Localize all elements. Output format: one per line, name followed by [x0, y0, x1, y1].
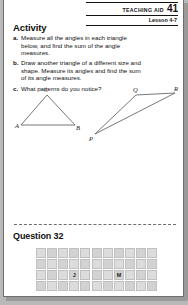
lesson-label: Lesson 4-7 — [86, 16, 178, 25]
grid-cell-letter: M — [115, 271, 123, 279]
page-shadow-right — [184, 3, 188, 300]
activity-item-b-text: Draw another triangle of a different siz… — [21, 59, 143, 82]
header-rule-top — [86, 2, 178, 3]
figure-area: A B C P Q R — [4, 84, 184, 144]
triangle-abc-outline — [21, 95, 75, 125]
grid-cell[interactable]: J — [69, 270, 79, 280]
grid-cell[interactable] — [147, 281, 157, 291]
grid-cell[interactable] — [69, 259, 79, 269]
grid-cell[interactable] — [58, 248, 68, 258]
grid-cell[interactable] — [114, 248, 124, 258]
grid-row — [35, 281, 158, 292]
activity-item-b-letter: b. — [13, 59, 21, 67]
grid-row: JM — [35, 269, 158, 280]
grid-cell[interactable] — [125, 281, 135, 291]
grid-cell[interactable] — [136, 248, 146, 258]
grid-cell-letter: J — [70, 271, 78, 279]
activity-item-a: a. Measure all the angles in each triang… — [13, 34, 143, 57]
page-shadow-bottom — [6, 297, 187, 301]
grid-cell[interactable] — [58, 281, 68, 291]
grid-row — [35, 247, 158, 258]
grid-cell[interactable] — [114, 259, 124, 269]
grid-cell[interactable] — [36, 259, 46, 269]
teaching-aid-label: TEACHING AID — [122, 7, 163, 14]
triangle-pqr-vertex-p-label: P — [88, 135, 93, 142]
worksheet-page: TEACHING AID 41 Lesson 4-7 Activity a. M… — [0, 0, 188, 305]
grid-cell[interactable]: M — [114, 270, 124, 280]
grid-cell[interactable] — [36, 270, 46, 280]
question-title: Question 32 — [13, 231, 63, 241]
triangle-pqr-figure: P Q R — [88, 84, 183, 142]
grid-cell[interactable] — [147, 270, 157, 280]
header-rule-bottom — [86, 25, 178, 26]
grid-cell[interactable] — [147, 259, 157, 269]
teaching-aid-header: TEACHING AID 41 Lesson 4-7 — [86, 2, 178, 26]
grid-cell[interactable] — [47, 248, 57, 258]
triangle-abc-vertex-a-label: A — [14, 122, 19, 129]
grid-cell[interactable] — [92, 259, 102, 269]
grid-cell[interactable] — [114, 281, 124, 291]
grid-cell[interactable] — [47, 270, 57, 280]
section-divider — [14, 224, 176, 225]
grid-cell[interactable] — [58, 259, 68, 269]
grid-cell[interactable] — [103, 259, 113, 269]
triangle-abc-figure: A B C — [12, 84, 86, 136]
grid-cell[interactable] — [103, 270, 113, 280]
triangle-pqr-vertex-r-label: R — [173, 85, 178, 92]
grid-cell[interactable] — [47, 281, 57, 291]
grid-cell[interactable] — [69, 281, 79, 291]
grid-cell[interactable] — [36, 248, 46, 258]
grid-cell[interactable] — [92, 248, 102, 258]
teaching-aid-line: TEACHING AID 41 — [86, 4, 178, 15]
worksheet-sheet: TEACHING AID 41 Lesson 4-7 Activity a. M… — [3, 0, 184, 297]
triangle-pqr-vertex-q-label: Q — [133, 86, 138, 93]
grid-row — [35, 258, 158, 269]
grid-cell[interactable] — [47, 259, 57, 269]
grid-cell[interactable] — [147, 248, 157, 258]
activity-item-b: b. Draw another triangle of a different … — [13, 59, 143, 82]
grid-cell[interactable] — [136, 270, 146, 280]
triangle-abc-vertex-c-label: C — [44, 86, 49, 93]
grid-cell[interactable] — [36, 281, 46, 291]
grid-cell[interactable] — [80, 270, 90, 280]
activity-item-a-letter: a. — [13, 34, 21, 42]
grid-cell[interactable] — [58, 270, 68, 280]
grid-cell[interactable] — [80, 248, 90, 258]
grid-cell[interactable] — [136, 259, 146, 269]
activity-item-a-text: Measure all the angles in each triangle … — [21, 34, 143, 57]
grid-cell[interactable] — [92, 281, 102, 291]
grid-cell[interactable] — [136, 281, 146, 291]
grid-cell[interactable] — [69, 248, 79, 258]
teaching-aid-number: 41 — [167, 4, 178, 14]
triangle-pqr-outline — [95, 93, 175, 134]
grid-cell[interactable] — [80, 281, 90, 291]
triangle-abc-vertex-b-label: B — [76, 124, 80, 131]
grid-cell[interactable] — [125, 259, 135, 269]
grid-cell[interactable] — [103, 281, 113, 291]
activity-title: Activity — [13, 22, 47, 33]
answer-grid[interactable]: JM — [35, 247, 158, 292]
grid-cell[interactable] — [125, 248, 135, 258]
grid-cell[interactable] — [80, 259, 90, 269]
grid-cell[interactable] — [125, 270, 135, 280]
grid-cell[interactable] — [103, 248, 113, 258]
grid-cell[interactable] — [92, 270, 102, 280]
